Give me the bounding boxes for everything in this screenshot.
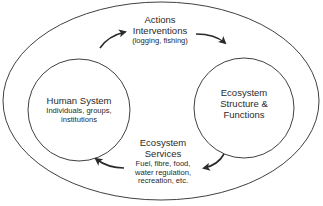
actions-label: Actions Interventions (logging, fishing): [105, 15, 215, 46]
services-line-5: recreation, etc.: [115, 177, 211, 186]
ecosystem-line-3: Functions: [194, 110, 294, 121]
ecosystem-label: Ecosystem Structure & Functions: [194, 88, 294, 121]
actions-line-3: (logging, fishing): [105, 37, 215, 46]
human-system-subtitle-2: institutions: [29, 116, 129, 125]
human-system-label: Human System Individuals, groups, instit…: [29, 96, 129, 124]
services-label: Ecosystem Services Fuel, fibre, food, wa…: [115, 138, 211, 186]
